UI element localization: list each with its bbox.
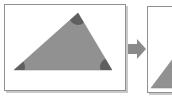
before-panel[interactable] (4, 4, 126, 91)
after-stage (147, 6, 172, 93)
before-panel-shadow (6, 91, 128, 93)
right-arrow (128, 38, 146, 60)
right-arrow-icon (128, 38, 146, 60)
before-after-figure (0, 0, 172, 100)
after-panel[interactable] (147, 6, 172, 93)
before-stage (4, 4, 126, 91)
after-panel-shadow (149, 93, 172, 95)
